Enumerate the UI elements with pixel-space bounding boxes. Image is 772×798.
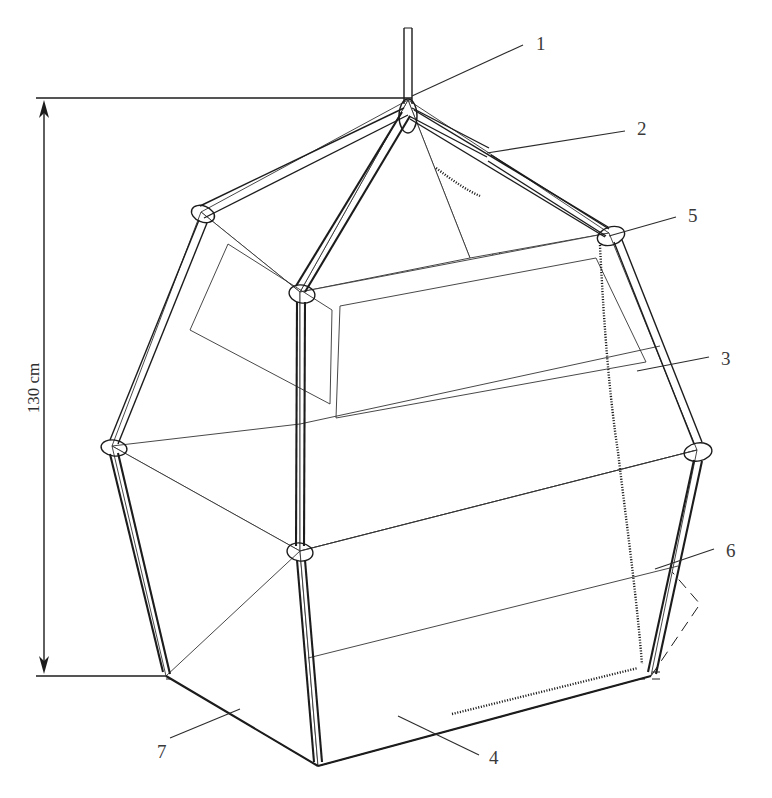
leader-line-1 xyxy=(412,45,523,96)
callout-label-7: 7 xyxy=(157,742,167,761)
pole-front-upper-a xyxy=(296,302,297,546)
leader-line-2 xyxy=(487,131,625,153)
drawing-canvas: 1 2 3 4 5 6 7 130 cm xyxy=(0,0,772,798)
pole-front-upper-b xyxy=(304,302,305,546)
callout-label-4: 4 xyxy=(489,748,499,767)
leader-line-7 xyxy=(170,709,240,738)
callout-label-6: 6 xyxy=(726,541,736,560)
callout-label-1: 1 xyxy=(536,34,546,53)
dimension-label: 130 cm xyxy=(24,348,44,428)
tent-line-drawing xyxy=(0,0,772,798)
callout-label-5: 5 xyxy=(688,206,698,225)
callout-label-2: 2 xyxy=(637,119,647,138)
callout-label-3: 3 xyxy=(721,349,731,368)
tent-shell xyxy=(112,100,697,766)
